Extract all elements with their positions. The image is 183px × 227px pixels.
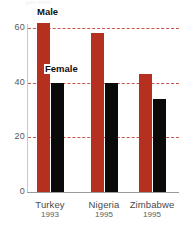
bar-male-zimbabwe (139, 74, 152, 192)
gridline-60 (28, 28, 179, 29)
x-label-turkey: Turkey1993 (20, 199, 80, 220)
series-label-male: Male (36, 7, 59, 17)
series-label-female: Female (44, 64, 79, 74)
y-tick-label: 0 (1, 187, 25, 196)
bar-chart: per cent 6040200 Turkey1993Nigeria1995Zi… (0, 0, 183, 227)
bar-female-turkey (51, 83, 64, 192)
x-label-country: Turkey (20, 199, 80, 210)
x-label-zimbabwe: Zimbabwe1995 (122, 199, 182, 220)
plot-area: 6040200 Turkey1993Nigeria1995Zimbabwe199… (0, 0, 183, 227)
y-tick-0: 0 (0, 187, 25, 196)
bar-male-turkey (37, 23, 50, 192)
y-tick-label: 40 (1, 78, 25, 87)
y-tick-60: 60 (0, 23, 25, 32)
x-label-year: 1995 (122, 210, 182, 220)
y-tick-label: 60 (1, 23, 25, 32)
bar-female-nigeria (105, 83, 118, 192)
x-axis-line (27, 192, 179, 193)
x-label-year: 1993 (20, 210, 80, 220)
x-label-country: Zimbabwe (122, 199, 182, 210)
bar-male-nigeria (91, 33, 104, 192)
y-tick-40: 40 (0, 78, 25, 87)
y-tick-20: 20 (0, 132, 25, 141)
bar-female-zimbabwe (153, 99, 166, 192)
y-axis-line (27, 24, 28, 193)
y-tick-label: 20 (1, 132, 25, 141)
